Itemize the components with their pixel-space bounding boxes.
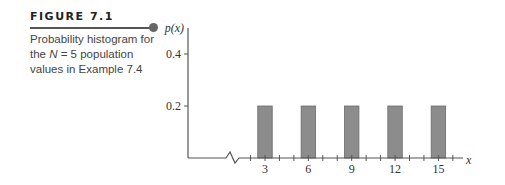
- histogram-bar: [258, 106, 272, 158]
- y-tick-label: 0.2: [166, 99, 181, 113]
- x-tick-label: 15: [432, 162, 444, 176]
- histogram-bar: [388, 106, 402, 158]
- histogram-bar: [301, 106, 315, 158]
- probability-histogram: 0.20.4p(x)3691215x: [0, 0, 505, 185]
- histogram-bar: [431, 106, 445, 158]
- x-tick-label: 9: [349, 162, 355, 176]
- axes-group: 0.20.4p(x)3691215x: [164, 21, 472, 176]
- y-tick-label: 0.4: [166, 47, 181, 61]
- x-axis-line: [188, 152, 463, 163]
- x-tick-label: 12: [389, 162, 401, 176]
- histogram-bar: [344, 106, 358, 158]
- x-axis-label: x: [465, 153, 472, 167]
- bars-group: [258, 106, 446, 158]
- x-tick-label: 3: [262, 162, 268, 176]
- y-axis-label: p(x): [164, 21, 184, 35]
- x-tick-label: 6: [305, 162, 311, 176]
